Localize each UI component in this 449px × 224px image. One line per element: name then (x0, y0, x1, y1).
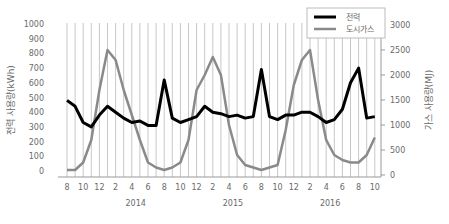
x-tick-label: 10 (370, 183, 380, 192)
left-axis-title: 전력 사용량(kWh) (5, 65, 16, 135)
year-label: 2015 (223, 199, 243, 208)
x-tick-label: 8 (356, 183, 361, 192)
x-tick-label: 6 (243, 183, 248, 192)
right-tick-label: 2000 (390, 71, 410, 80)
year-label: 2016 (320, 199, 340, 208)
left-tick-label: 600 (29, 79, 44, 88)
x-tick-label: 12 (289, 183, 299, 192)
x-axis-year-labels: 201420152016 (126, 199, 341, 208)
x-tick-label: 2 (113, 183, 118, 192)
x-axis-tick-labels: 810122468101224681012246810 (64, 183, 379, 192)
left-tick-label: 400 (29, 108, 44, 117)
x-tick-label: 10 (78, 183, 88, 192)
right-tick-label: 0 (390, 171, 395, 180)
left-tick-label: 200 (29, 138, 44, 147)
left-y-axis-ticks: 01002003004005006007008009001000 (24, 20, 44, 176)
left-tick-label: 100 (29, 152, 44, 161)
right-y-axis-ticks: 050010001500200025003000 (381, 21, 410, 180)
right-tick-label: 3000 (390, 21, 410, 30)
left-tick-label: 700 (29, 64, 44, 73)
x-tick-label: 10 (273, 183, 283, 192)
left-tick-label: 800 (29, 49, 44, 58)
vertical-gridlines (67, 23, 375, 177)
x-tick-label: 6 (145, 183, 150, 192)
left-tick-label: 0 (39, 167, 44, 176)
x-tick-label: 10 (175, 183, 185, 192)
legend: 전력 도시가스 (307, 8, 385, 38)
left-tick-label: 300 (29, 123, 44, 132)
x-tick-label: 12 (94, 183, 104, 192)
right-axis-title: 가스 사용량(MJ) (423, 70, 434, 130)
x-tick-label: 2 (210, 183, 215, 192)
right-tick-label: 500 (390, 146, 405, 155)
right-tick-label: 1500 (390, 96, 410, 105)
x-tick-label: 4 (226, 183, 231, 192)
dual-axis-line-chart: 01002003004005006007008009001000 0500100… (0, 0, 449, 224)
x-tick-label: 4 (129, 183, 134, 192)
right-tick-label: 2500 (390, 46, 410, 55)
x-tick-label: 4 (324, 183, 329, 192)
right-tick-label: 1000 (390, 121, 410, 130)
x-tick-label: 8 (259, 183, 264, 192)
x-tick-label: 12 (192, 183, 202, 192)
x-tick-label: 8 (162, 183, 167, 192)
legend-label-electricity: 전력 (346, 12, 360, 22)
x-tick-label: 2 (307, 183, 312, 192)
year-label: 2014 (126, 199, 146, 208)
x-tick-label: 6 (340, 183, 345, 192)
left-tick-label: 500 (29, 94, 44, 103)
legend-label-gas: 도시가스 (346, 25, 374, 34)
left-tick-label: 1000 (24, 20, 44, 29)
x-tick-label: 8 (64, 183, 69, 192)
left-tick-label: 900 (29, 35, 44, 44)
